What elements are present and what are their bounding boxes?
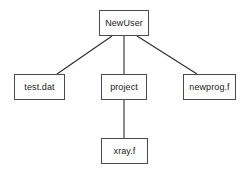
tree-node-label: xray.f (114, 146, 136, 156)
tree-node-project[interactable]: project (101, 74, 147, 100)
tree-node-label: test.dat (24, 82, 54, 92)
edge-newuser-to-newprog-f (137, 36, 197, 74)
tree-node-newuser[interactable]: NewUser (99, 10, 149, 36)
tree-node-newprog-f[interactable]: newprog.f (183, 74, 236, 100)
directory-tree-diagram: NewUser test.dat project newprog.f xray.… (0, 0, 250, 171)
tree-node-label: project (110, 82, 138, 92)
tree-node-label: NewUser (105, 18, 143, 28)
tree-node-label: newprog.f (189, 82, 229, 92)
tree-node-test-dat[interactable]: test.dat (14, 74, 65, 100)
tree-node-xray-f[interactable]: xray.f (101, 138, 148, 164)
edge-newuser-to-test-dat (57, 36, 112, 74)
